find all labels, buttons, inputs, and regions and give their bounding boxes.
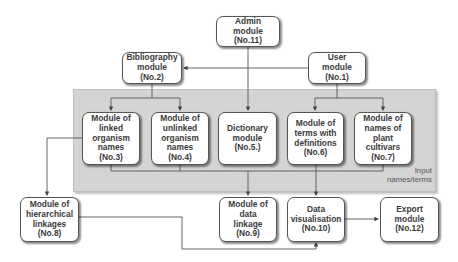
data-linkage-label: Module of data linkage (No.9) — [228, 200, 268, 240]
data-linkage-module-box: Module of data linkage (No.9) — [219, 197, 277, 242]
hierarchical-linkages-label: Module of hierarchical linkages (No.8) — [26, 200, 73, 240]
data-visualisation-label: Data visualisation (No.10) — [291, 205, 342, 235]
linked-organism-names-module-box: Module of linked organism names (No.3) — [82, 112, 140, 165]
unlinked-organism-names-module-box: Module of unlinked organism names (No.4) — [151, 112, 209, 165]
dictionary-module-box: Dictionary module (No.5.) — [218, 112, 277, 165]
terms-definitions-module-box: Module of terms with definitions (No.6) — [287, 112, 344, 165]
plant-cultivars-module-box: Module of names of plant cultivars (No.7… — [354, 112, 412, 165]
plant-cultivars-label: Module of names of plant cultivars (No.7… — [356, 114, 410, 164]
terms-definitions-label: Module of terms with definitions (No.6) — [294, 119, 336, 159]
user-module-box: User module (No.1) — [308, 52, 366, 84]
hierarchical-linkages-module-box: Module of hierarchical linkages (No.8) — [20, 197, 79, 242]
unlinked-organism-names-label: Module of unlinked organism names (No.4) — [160, 114, 200, 164]
user-module-label: User module (No.1) — [322, 53, 352, 83]
bibliography-module-box: Bibliography module (No.2) — [122, 52, 182, 84]
export-module-box: Export module (No.12) — [380, 197, 439, 242]
linked-organism-names-label: Module of linked organism names (No.3) — [91, 114, 131, 164]
dictionary-module-label: Dictionary module (No.5.) — [227, 124, 268, 154]
admin-module-label: Admin module (No.11) — [233, 17, 263, 47]
bibliography-module-label: Bibliography module (No.2) — [126, 53, 177, 83]
data-visualisation-module-box: Data visualisation (No.10) — [287, 197, 345, 242]
admin-module-box: Admin module (No.11) — [216, 16, 280, 47]
input-names-terms-label: Input names/terms — [387, 166, 432, 185]
export-module-label: Export module (No.12) — [395, 205, 425, 235]
